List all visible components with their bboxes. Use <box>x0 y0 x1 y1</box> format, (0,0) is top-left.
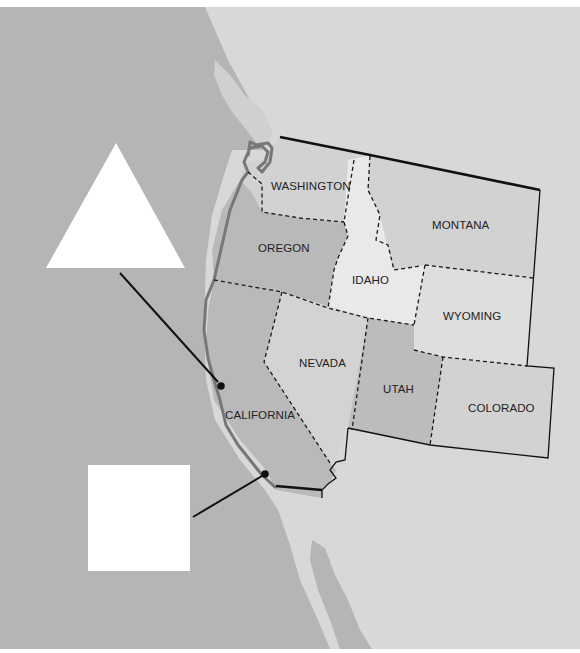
western-us-map: WASHINGTON OREGON CALIFORNIA IDAHO MONTA… <box>0 0 580 653</box>
bottom-margin <box>0 649 580 653</box>
map-container: WASHINGTON OREGON CALIFORNIA IDAHO MONTA… <box>0 0 580 653</box>
label-nevada: NEVADA <box>299 357 346 369</box>
label-washington: WASHINGTON <box>271 180 351 192</box>
label-montana: MONTANA <box>432 219 490 231</box>
label-colorado: COLORADO <box>468 402 535 414</box>
label-california: CALIFORNIA <box>225 409 295 421</box>
square-location-dot <box>261 470 269 478</box>
label-oregon: OREGON <box>258 242 310 254</box>
triangle-location-dot <box>217 382 225 390</box>
label-utah: UTAH <box>383 383 414 395</box>
top-margin <box>0 0 580 7</box>
square-marker-box[interactable] <box>88 465 190 571</box>
label-idaho: IDAHO <box>352 274 389 286</box>
label-wyoming: WYOMING <box>443 310 501 322</box>
